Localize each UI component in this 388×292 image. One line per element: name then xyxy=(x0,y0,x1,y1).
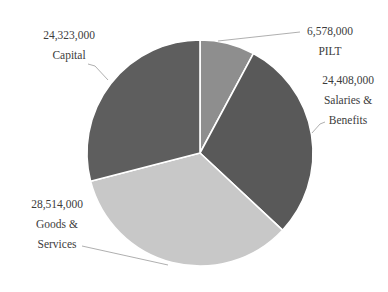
data-label-goods-category-line2: Services xyxy=(22,234,92,254)
data-label-pilt: 6,578,000 PILT xyxy=(298,21,362,61)
pie-slices xyxy=(87,40,313,266)
data-label-pilt-value: 6,578,000 xyxy=(298,21,362,41)
data-label-salaries-category-line1: Salaries & xyxy=(312,90,384,110)
data-label-capital-category: Capital xyxy=(34,45,104,65)
data-label-goods: 28,514,000 Goods & Services xyxy=(22,194,92,254)
leader-line-pilt xyxy=(218,32,300,41)
data-label-capital: 24,323,000 Capital xyxy=(34,25,104,65)
leader-line-capital xyxy=(88,64,108,80)
data-label-salaries: 24,408,000 Salaries & Benefits xyxy=(312,70,384,130)
data-label-goods-value: 28,514,000 xyxy=(22,194,92,214)
data-label-salaries-category-line2: Benefits xyxy=(312,110,384,130)
data-label-salaries-value: 24,408,000 xyxy=(312,70,384,90)
data-label-pilt-category: PILT xyxy=(298,41,362,61)
data-label-capital-value: 24,323,000 xyxy=(34,25,104,45)
data-label-goods-category-line1: Goods & xyxy=(22,214,92,234)
